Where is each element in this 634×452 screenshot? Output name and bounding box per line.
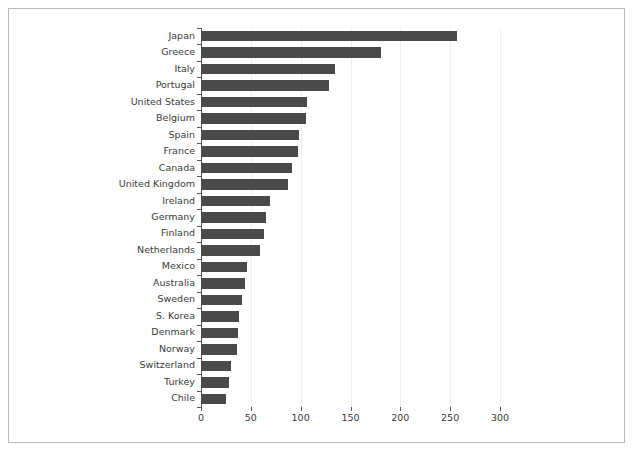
bar-row (201, 308, 500, 324)
y-axis-category-label: Spain (5, 129, 195, 140)
bar-row (201, 127, 500, 143)
bar (201, 196, 270, 207)
y-axis-category-label: Denmark (5, 326, 195, 337)
y-axis-category-label: Turkey (5, 376, 195, 387)
bar (201, 130, 299, 141)
bar-row (201, 259, 500, 275)
bar (201, 311, 239, 322)
bar (201, 361, 231, 372)
bar-row (201, 77, 500, 93)
y-axis-category-label: Italy (5, 63, 195, 74)
y-axis-category-label: Greece (5, 46, 195, 57)
bar-row (201, 193, 500, 209)
y-axis-category-label: Portugal (5, 79, 195, 90)
bar (201, 328, 238, 339)
bar (201, 212, 266, 223)
bar-row (201, 61, 500, 77)
x-axis-tick-label: 100 (281, 412, 321, 423)
bar (201, 80, 329, 91)
bar-row (201, 143, 500, 159)
bar-row (201, 391, 500, 407)
bar (201, 113, 306, 124)
y-axis-category-label: Chile (5, 392, 195, 403)
x-axis-tick-label: 250 (430, 412, 470, 423)
y-axis-category-label: Australia (5, 277, 195, 288)
y-axis-category-label: Finland (5, 227, 195, 238)
x-axis-tick (351, 407, 352, 411)
bar (201, 278, 245, 289)
x-axis-tick-label: 150 (331, 412, 371, 423)
bar-row (201, 110, 500, 126)
y-axis-category-label: Ireland (5, 195, 195, 206)
y-axis-category-label: United Kingdom (5, 178, 195, 189)
bar (201, 163, 292, 174)
x-axis-tick (400, 407, 401, 411)
plot-area (201, 28, 500, 407)
bar (201, 394, 226, 405)
bar (201, 31, 457, 42)
x-axis-tick-label: 200 (380, 412, 420, 423)
x-axis-tick (201, 407, 202, 411)
bar (201, 262, 247, 273)
bar-row (201, 242, 500, 258)
y-axis-category-label: S. Korea (5, 310, 195, 321)
x-axis-tick-label: 50 (231, 412, 271, 423)
bar-row (201, 275, 500, 291)
bar-row (201, 292, 500, 308)
y-axis-category-label: Japan (5, 30, 195, 41)
bar (201, 377, 229, 388)
bar (201, 229, 264, 240)
bar-row (201, 209, 500, 225)
bar (201, 179, 288, 190)
bar (201, 146, 298, 157)
bar-row (201, 44, 500, 60)
x-axis-tick (301, 407, 302, 411)
bar-row (201, 374, 500, 390)
bar-row (201, 358, 500, 374)
y-axis-category-label: Switzerland (5, 359, 195, 370)
y-axis-category-label: Mexico (5, 260, 195, 271)
bar (201, 245, 260, 256)
y-axis-category-label: Canada (5, 162, 195, 173)
bar-row (201, 226, 500, 242)
bar-row (201, 341, 500, 357)
x-axis-tick (450, 407, 451, 411)
chart-figure: 050100150200250300 JapanGreeceItalyPortu… (0, 0, 634, 452)
y-axis-category-label: Netherlands (5, 244, 195, 255)
x-axis-tick-label: 0 (181, 412, 221, 423)
bar-row (201, 94, 500, 110)
bar-row (201, 28, 500, 44)
bar-row (201, 160, 500, 176)
bar (201, 97, 307, 108)
bar (201, 64, 335, 75)
bar (201, 295, 242, 306)
x-axis-tick-label: 300 (480, 412, 520, 423)
y-axis-category-label: Germany (5, 211, 195, 222)
bar (201, 47, 381, 58)
y-axis-category-label: Norway (5, 343, 195, 354)
x-axis-tick (251, 407, 252, 411)
x-axis-tick (500, 407, 501, 411)
y-axis-category-label: Sweden (5, 293, 195, 304)
bar (201, 344, 237, 355)
gridline (500, 28, 501, 407)
y-axis-category-label: United States (5, 96, 195, 107)
y-axis-category-label: France (5, 145, 195, 156)
bar-row (201, 325, 500, 341)
y-axis-category-label: Belgium (5, 112, 195, 123)
y-axis-tick (197, 407, 201, 408)
bar-row (201, 176, 500, 192)
